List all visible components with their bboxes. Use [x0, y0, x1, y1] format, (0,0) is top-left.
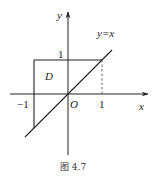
tick-y-one: 1	[58, 48, 64, 60]
y-axis-label: y	[56, 9, 62, 21]
figure-caption: 图 4.7	[60, 162, 86, 172]
origin-label: O	[70, 98, 78, 110]
region-label: D	[44, 70, 53, 82]
tick-x-one: 1	[99, 98, 105, 110]
x-axis-label: x	[138, 100, 144, 112]
tick-x-neg-one: −1	[17, 98, 29, 110]
line-label: y=x	[96, 27, 114, 39]
diagram-canvas: y x O y=x D 1 −1 1 图 4.7	[0, 0, 158, 177]
